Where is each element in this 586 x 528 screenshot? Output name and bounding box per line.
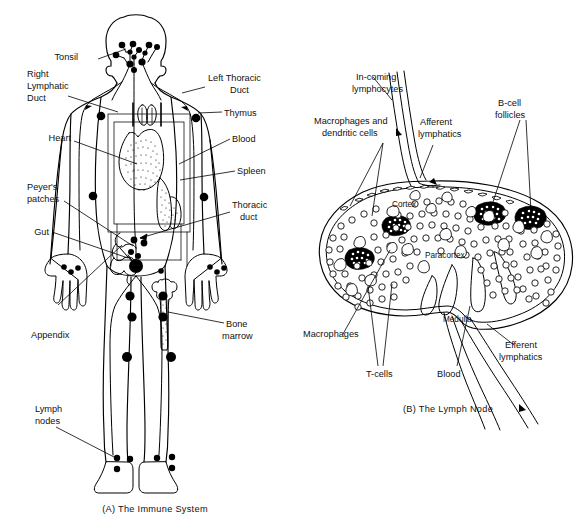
label-tcells: T-cells xyxy=(366,369,393,379)
label-thoracic-duct-line1: Thoracic xyxy=(232,200,268,210)
figure-canvas: Tonsil Right Lymphatic Duct Heart Peyer'… xyxy=(0,0,586,528)
label-efferent-line1: Efferent xyxy=(505,340,537,350)
label-efferent-line2: lymphatics xyxy=(499,352,543,362)
label-macrophages: Macrophages xyxy=(303,329,359,339)
label-heart: Heart xyxy=(49,133,72,143)
label-left-duct-line2: Duct xyxy=(230,85,249,95)
label-bcell-line2: follicles xyxy=(495,110,526,120)
label-peyers-line1: Peyer's xyxy=(27,182,58,192)
panel-b-caption: (B) The Lymph Node xyxy=(403,404,493,414)
label-macro-dend-line2: dendritic cells xyxy=(322,128,378,138)
label-afferent-line2: lymphatics xyxy=(418,129,462,139)
label-left-duct-line1: Left Thoracic xyxy=(208,73,261,83)
background xyxy=(0,0,586,528)
label-right-duct-line3: Duct xyxy=(27,93,46,103)
label-blood-b: Blood xyxy=(437,369,461,379)
label-thymus: Thymus xyxy=(224,108,257,118)
label-spleen: Spleen xyxy=(237,166,266,176)
label-lymph-nodes-line1: Lymph xyxy=(35,404,62,414)
label-incoming-line1: In-coming xyxy=(356,72,396,82)
label-right-duct-line2: Lymphatic xyxy=(27,81,69,91)
label-bone-marrow-line2: marrow xyxy=(222,331,253,341)
label-thoracic-duct-line2: duct xyxy=(240,212,258,222)
label-cortex: Cortex xyxy=(392,200,416,209)
label-lymph-nodes-line2: nodes xyxy=(35,416,60,426)
label-macro-dend-line1: Macrophages and xyxy=(314,116,388,126)
label-incoming-line2: lymphocytes xyxy=(352,84,403,94)
immune-system-figure: Tonsil Right Lymphatic Duct Heart Peyer'… xyxy=(0,0,586,528)
label-tonsil: Tonsil xyxy=(55,52,79,62)
label-peyers-line2: patches xyxy=(27,194,60,204)
label-paracortex: Paracortex xyxy=(425,251,465,260)
label-gut: Gut xyxy=(34,227,49,237)
label-afferent-line1: Afferent xyxy=(420,117,452,127)
panel-a-caption: (A) The Immune System xyxy=(102,504,208,514)
label-appendix: Appendix xyxy=(31,330,70,340)
label-blood: Blood xyxy=(232,134,256,144)
label-bcell-line1: B-cell xyxy=(498,98,521,108)
label-bone-marrow-line1: Bone xyxy=(226,319,247,329)
label-right-duct-line1: Right xyxy=(27,69,49,79)
